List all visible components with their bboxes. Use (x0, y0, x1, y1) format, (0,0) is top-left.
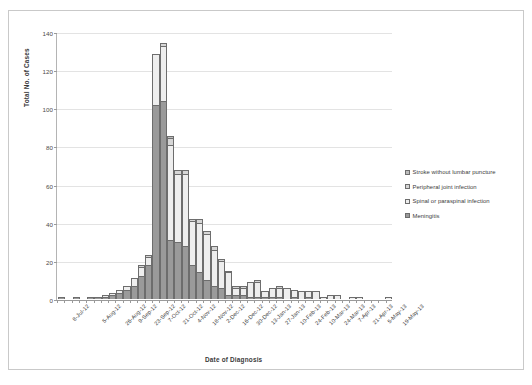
y-axis-title: Total No. of Cases (23, 48, 30, 107)
bar-segment-spinal-or-paraspinal-infection (334, 295, 341, 299)
x-axis-tick-mark (283, 300, 284, 303)
bar-column[interactable] (152, 33, 159, 299)
x-axis-tick-mark (298, 300, 299, 303)
y-axis-tick-label: 40 (46, 220, 53, 227)
x-axis-tick-mark (291, 300, 292, 303)
bar-segment-spinal-or-paraspinal-infection (160, 46, 167, 101)
x-axis-tick-mark (123, 300, 124, 303)
bar-segment-meningitis (182, 246, 189, 299)
bar-column[interactable] (305, 33, 312, 299)
bar-column[interactable] (283, 33, 290, 299)
bar-column[interactable] (131, 33, 138, 299)
x-axis-tick-mark (386, 300, 387, 303)
y-axis-tick-mark (54, 147, 57, 148)
bar-segment-meningitis (211, 286, 218, 299)
bar-segment-spinal-or-paraspinal-infection (385, 297, 392, 299)
y-axis-tick-label: 120 (42, 68, 53, 75)
bar-segment-meningitis (269, 297, 276, 299)
bar-column[interactable] (247, 33, 254, 299)
bar-segment-meningitis (58, 297, 65, 299)
bar-column[interactable] (65, 33, 72, 299)
bar-column[interactable] (87, 33, 94, 299)
bar-column[interactable] (327, 33, 334, 299)
bar-segment-spinal-or-paraspinal-infection (254, 282, 261, 297)
bar-column[interactable] (269, 33, 276, 299)
x-axis-tick-mark (371, 300, 372, 303)
bar-column[interactable] (123, 33, 130, 299)
legend-item-meningitis[interactable]: Meningitis (405, 213, 531, 219)
bar-column[interactable] (232, 33, 239, 299)
x-axis-tick-mark (269, 300, 270, 303)
bar-column[interactable] (378, 33, 385, 299)
bar-column[interactable] (349, 33, 356, 299)
bar-segment-spinal-or-paraspinal-infection (189, 221, 196, 265)
bar-column[interactable] (196, 33, 203, 299)
bar-segment-spinal-or-paraspinal-infection (232, 288, 239, 296)
legend-item-label: Meningitis (413, 213, 440, 219)
x-axis-tick-mark (145, 300, 146, 303)
bar-column[interactable] (94, 33, 101, 299)
x-axis-tick-mark (313, 300, 314, 303)
x-axis-tick-mark (203, 300, 204, 303)
plot-inner: 020406080100120140 (56, 33, 392, 301)
bar-column[interactable] (58, 33, 65, 299)
bar-column[interactable] (240, 33, 247, 299)
bar-segment-spinal-or-paraspinal-infection (240, 288, 247, 296)
bar-column[interactable] (320, 33, 327, 299)
x-axis-tick-mark (101, 300, 102, 303)
bar-column[interactable] (73, 33, 80, 299)
bar-column[interactable] (276, 33, 283, 299)
bar-column[interactable] (298, 33, 305, 299)
bar-column[interactable] (211, 33, 218, 299)
bar-column[interactable] (203, 33, 210, 299)
y-axis-tick-label: 80 (46, 144, 53, 151)
bar-column[interactable] (109, 33, 116, 299)
bar-column[interactable] (225, 33, 232, 299)
bar-column[interactable] (102, 33, 109, 299)
bar-column[interactable] (160, 33, 167, 299)
bar-segment-spinal-or-paraspinal-infection (225, 272, 232, 295)
bar-column[interactable] (182, 33, 189, 299)
x-axis-tick-mark (254, 300, 255, 303)
bar-segment-meningitis (232, 295, 239, 299)
bar-column[interactable] (174, 33, 181, 299)
legend-item-stroke-without-lumbar-puncture[interactable]: Stroke without lumbar puncture (405, 169, 531, 175)
bar-column[interactable] (363, 33, 370, 299)
x-axis-tick-mark (72, 300, 73, 303)
bar-column[interactable] (80, 33, 87, 299)
bar-column[interactable] (116, 33, 123, 299)
bar-column[interactable] (167, 33, 174, 299)
bar-segment-meningitis (102, 297, 109, 299)
bar-column[interactable] (254, 33, 261, 299)
bar-segment-spinal-or-paraspinal-infection (247, 282, 254, 297)
bar-segment-meningitis (138, 276, 145, 299)
bar-column[interactable] (341, 33, 348, 299)
x-axis-tick-mark (305, 300, 306, 303)
legend-item-label: Peripheral joint infection (413, 184, 477, 190)
bar-column[interactable] (291, 33, 298, 299)
bar-column[interactable] (261, 33, 268, 299)
bar-column[interactable] (189, 33, 196, 299)
bar-column[interactable] (138, 33, 145, 299)
bar-column[interactable] (312, 33, 319, 299)
bar-column[interactable] (356, 33, 363, 299)
bar-segment-spinal-or-paraspinal-infection (291, 290, 298, 298)
y-axis-tick-mark (54, 224, 57, 225)
bar-segment-meningitis (276, 297, 283, 299)
legend-item-spinal-or-paraspinal-infection[interactable]: Spinal or paraspinal infection (405, 198, 531, 204)
bar-column[interactable] (385, 33, 392, 299)
bar-column[interactable] (145, 33, 152, 299)
x-axis-tick-mark (378, 300, 379, 303)
bar-column[interactable] (370, 33, 377, 299)
bar-segment-meningitis (131, 286, 138, 299)
bar-column[interactable] (334, 33, 341, 299)
legend-item-peripheral-joint-infection[interactable]: Peripheral joint infection (405, 184, 531, 190)
x-axis-tick-mark (364, 300, 365, 303)
x-axis-tick-mark (276, 300, 277, 303)
bar-segment-meningitis (218, 288, 225, 299)
legend-swatch-icon (405, 170, 410, 175)
bar-segment-meningitis (152, 105, 159, 299)
bar-column[interactable] (218, 33, 225, 299)
x-axis-tick-mark (174, 300, 175, 303)
chart-figure: Total No. of Cases 020406080100120140 8-… (0, 0, 532, 385)
